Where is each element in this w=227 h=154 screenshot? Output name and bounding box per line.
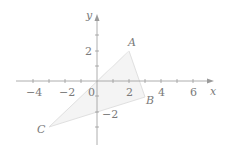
y-axis-label: y [85, 9, 93, 22]
y-axis-arrow-icon [95, 14, 100, 21]
origin-label: 0 [88, 86, 95, 99]
coordinate-diagram: x y 0 −4 −2 2 4 6 2 −2 A B C [0, 0, 227, 154]
x-tick-label: 2 [126, 86, 133, 99]
x-axis-label: x [210, 85, 217, 98]
x-axis-arrow-icon [207, 79, 214, 84]
point-label-b: B [145, 94, 154, 107]
x-tick-label: −4 [26, 86, 42, 99]
x-tick-label: 4 [158, 86, 165, 99]
y-tick-label: 2 [85, 45, 92, 58]
y-tick-label: −2 [102, 108, 118, 121]
point-label-a: A [127, 36, 136, 49]
x-tick-label: −2 [59, 86, 75, 99]
x-tick-label: 6 [190, 86, 197, 99]
point-label-c: C [37, 123, 46, 136]
